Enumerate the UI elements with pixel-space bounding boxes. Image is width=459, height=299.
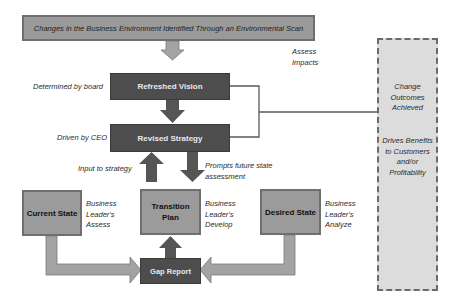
desired-state-note: Business Leader's Analyze: [325, 199, 355, 231]
current-state-box: Current State: [22, 190, 82, 236]
drives-benefits-text: Drives Benefits to Customers and/or Prof…: [379, 136, 436, 178]
refreshed-vision-box: Refreshed Vision: [110, 73, 230, 100]
arrow-input-to-strategy: [139, 152, 164, 182]
current-state-note: Business Leader's Assess: [86, 199, 116, 231]
note-line: Business: [325, 199, 355, 210]
box-label: Revised Strategy: [138, 134, 203, 143]
transition-plan-box: Transition Plan: [140, 189, 201, 235]
panel-line: Profitability: [379, 168, 436, 179]
transition-plan-note: Business Leader's Develop: [205, 199, 235, 231]
assess-impacts-note: Assess Impacts: [292, 47, 318, 68]
panel-line: Change: [379, 82, 436, 93]
gap-report-box: Gap Report: [140, 258, 201, 284]
note-line: Business: [205, 199, 235, 210]
box-label: Desired State: [265, 207, 316, 218]
driven-by-ceo-note: Driven by CEO: [57, 133, 107, 144]
box-label: Plan: [151, 212, 189, 223]
panel-line: Drives Benefits: [379, 136, 436, 147]
change-outcomes-text: Change Outcomes Achieved: [379, 82, 436, 114]
connector-vision: [230, 86, 259, 137]
note-line: Develop: [205, 220, 235, 231]
prompts-future-state-note: Prompts future state assessment: [205, 161, 273, 182]
note-line: Analyze: [325, 220, 355, 231]
outcomes-panel: Change Outcomes Achieved Drives Benefits…: [377, 38, 438, 291]
note-line: Assess: [292, 47, 318, 58]
note-line: Business: [86, 199, 116, 210]
note-line: Leader's: [205, 210, 235, 221]
arrow-desired-to-gap: [200, 235, 295, 283]
box-label: Refreshed Vision: [137, 82, 202, 91]
note-line: Prompts future state: [205, 161, 273, 172]
arrow-prompts-future-state: [180, 152, 205, 182]
panel-line: Outcomes: [379, 93, 436, 104]
panel-line: and/or: [379, 157, 436, 168]
box-label: Gap Report: [150, 267, 191, 276]
arrow-gap-to-transition: [159, 236, 182, 258]
note-line: Impacts: [292, 58, 318, 69]
arrow-current-to-gap: [46, 236, 141, 283]
note-line: Assess: [86, 220, 116, 231]
banner-text: Changes in the Business Environment Iden…: [34, 24, 303, 33]
input-to-strategy-note: Input to strategy: [78, 164, 132, 175]
environmental-scan-banner: Changes in the Business Environment Iden…: [22, 15, 315, 41]
panel-line: to Customers: [379, 147, 436, 158]
note-line: Leader's: [325, 210, 355, 221]
desired-state-box: Desired State: [260, 189, 321, 235]
box-label: Current State: [27, 208, 78, 219]
note-line: Leader's: [86, 210, 116, 221]
revised-strategy-box: Revised Strategy: [110, 124, 230, 152]
arrow-vision-to-strategy: [160, 100, 185, 123]
determined-by-board-note: Determined by board: [33, 82, 103, 93]
panel-line: Achieved: [379, 103, 436, 114]
box-label: Transition: [151, 201, 189, 212]
arrow-banner-to-vision: [161, 41, 184, 60]
note-line: assessment: [205, 172, 273, 183]
